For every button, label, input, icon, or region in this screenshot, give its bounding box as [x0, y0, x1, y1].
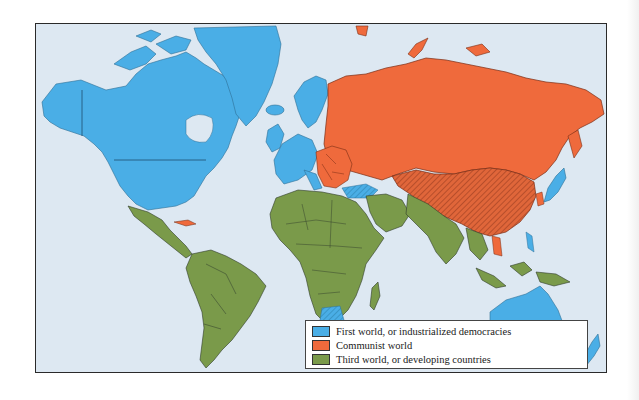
map-legend: First world, or industrialized democraci…: [305, 320, 588, 369]
third-world-swatch: [312, 354, 330, 365]
ussr: [324, 58, 604, 180]
legend-label: Communist world: [336, 340, 412, 351]
legend-label: First world, or industrialized democraci…: [336, 326, 511, 337]
africa: [270, 190, 384, 324]
legend-item-third-world: Third world, or developing countries: [312, 352, 581, 366]
first-world-swatch: [312, 326, 330, 337]
legend-label: Third world, or developing countries: [336, 354, 491, 365]
north-america: [42, 26, 284, 210]
communist-world-swatch: [312, 340, 330, 351]
page-edge: [627, 0, 639, 400]
south-america: [186, 250, 266, 368]
legend-item-first-world: First world, or industrialized democraci…: [312, 324, 581, 338]
legend-item-communist-world: Communist world: [312, 338, 581, 352]
